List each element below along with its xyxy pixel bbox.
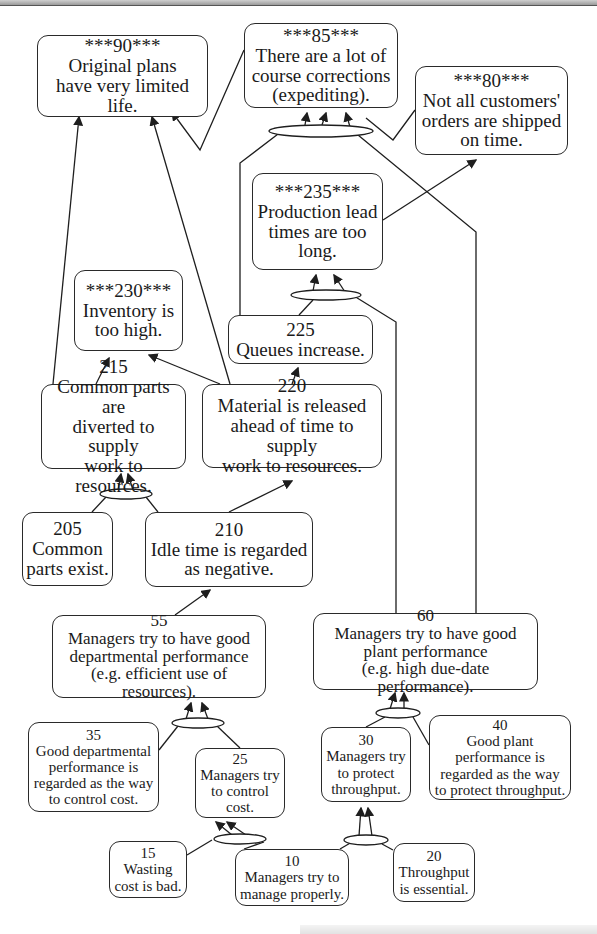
node-id-label: 25 (233, 751, 248, 767)
node-id-label: 215 (99, 357, 128, 377)
node-statement: Managers try to have good departmental p… (56, 630, 262, 701)
node-statement: Managers try to control cost. (200, 767, 280, 816)
node-230[interactable]: ***230*** Inventory is too high. (74, 270, 183, 351)
edge-n20-to-and30 (382, 844, 393, 850)
edge-and235-to-n235 (313, 275, 316, 291)
node-35[interactable]: 35 Good departmental performance is rega… (28, 722, 159, 812)
edge-n55-to-n210 (175, 590, 210, 615)
node-id-label: ***80*** (454, 71, 530, 91)
and-connector-60 (376, 708, 420, 718)
node-statement: Original plans have very limited life. (56, 56, 189, 116)
node-60[interactable]: 60 Managers try to have good plant perfo… (313, 613, 538, 690)
node-90[interactable]: ***90*** Original plans have very limite… (37, 35, 208, 117)
edge-and85-to-n85 (322, 113, 326, 125)
node-id-label: ***90*** (85, 36, 161, 56)
node-15[interactable]: 15 Wasting cost is bad. (109, 841, 187, 898)
edge-and85-to-n85 (305, 113, 307, 125)
node-statement: Material is released ahead of time to su… (206, 396, 378, 476)
node-235[interactable]: ***235*** Production lead times are too … (252, 173, 383, 270)
and-connector-85 (269, 125, 373, 137)
node-30[interactable]: 30 Managers try to protect throughput. (321, 727, 411, 802)
edge-and30-to-n30 (359, 808, 361, 836)
node-statement: Throughput is essential. (399, 864, 470, 896)
node-215[interactable]: 215 Common parts are diverted to supply … (41, 384, 186, 469)
edge-n210-to-and215 (146, 497, 158, 512)
edge-n15-to-and25 (187, 840, 212, 855)
node-85[interactable]: ***85*** There are a lot of course corre… (244, 23, 398, 108)
node-id-label: 225 (286, 320, 315, 340)
edge-and55-to-n55 (202, 703, 208, 719)
edge-n205-to-and215 (92, 497, 106, 512)
edge-and235-to-n235 (334, 275, 345, 292)
node-25[interactable]: 25 Managers try to control cost. (195, 748, 285, 818)
node-id-label: 210 (215, 520, 244, 540)
node-id-label: 40 (493, 717, 508, 733)
node-id-label: 30 (359, 732, 374, 748)
node-id-label: 10 (285, 853, 300, 869)
node-40[interactable]: 40 Good plant performance is regarded as… (429, 715, 571, 800)
node-20[interactable]: 20 Throughput is essential. (393, 843, 475, 902)
edge-n40-to-and60 (413, 717, 429, 745)
node-statement: Queues increase. (236, 340, 365, 360)
node-55[interactable]: 55 Managers try to have good departmenta… (52, 615, 266, 698)
edge-n210-to-n220 (229, 481, 292, 512)
edge-n80-to-n85 (366, 110, 415, 140)
edge-and85-to-n85 (346, 113, 350, 127)
node-225[interactable]: 225 Queues increase. (228, 315, 373, 364)
node-statement: Managers try to manage properly. (240, 869, 344, 901)
node-statement: Production lead times are too long. (258, 202, 378, 262)
node-statement: Good plant performance is regarded as th… (435, 733, 565, 798)
node-statement: Idle time is regarded as negative. (151, 540, 308, 580)
node-id-label: ***235*** (275, 182, 361, 202)
node-statement: Good departmental performance is regarde… (34, 743, 154, 808)
node-statement: Not all customers' orders are shipped on… (422, 91, 561, 151)
node-statement: Managers try to have good plant performa… (317, 625, 534, 696)
node-statement: Wasting cost is bad. (114, 861, 181, 893)
node-id-label: ***230*** (86, 281, 172, 301)
node-id-label: ***85*** (283, 26, 359, 46)
and-connector-55 (172, 718, 224, 728)
and-connector-25 (214, 834, 266, 844)
node-220[interactable]: 220 Material is released ahead of time t… (202, 384, 382, 468)
edge-n235-to-n80 (383, 160, 476, 220)
node-id-label: 205 (53, 519, 82, 539)
node-statement: Inventory is too high. (83, 301, 174, 341)
edge-n35-to-and55 (159, 726, 178, 750)
node-id-label: 20 (427, 848, 442, 864)
node-statement: Common parts exist. (26, 539, 108, 579)
and-connector-30 (344, 835, 388, 845)
and-connector-235 (291, 290, 361, 300)
node-id-label: 60 (417, 607, 434, 625)
edge-n30-to-and60 (366, 717, 385, 727)
node-statement: Common parts are diverted to supply work… (45, 377, 182, 497)
edge-n25-to-and55 (217, 726, 240, 748)
edge-n225-to-and235 (299, 300, 313, 315)
node-205[interactable]: 205 Common parts exist. (22, 512, 113, 586)
node-statement: Managers try to protect throughput. (326, 748, 406, 797)
node-80[interactable]: ***80*** Not all customers' orders are s… (415, 66, 568, 155)
edge-and55-to-n55 (186, 703, 191, 719)
node-statement: There are a lot of course corrections (e… (252, 46, 391, 106)
node-id-label: 15 (141, 845, 156, 861)
node-id-label: 35 (86, 727, 101, 743)
edge-and30-to-n30 (368, 808, 372, 836)
node-id-label: 55 (151, 612, 168, 630)
node-210[interactable]: 210 Idle time is regarded as negative. (145, 512, 313, 587)
node-id-label: 220 (278, 376, 307, 396)
node-10[interactable]: 10 Managers try to manage properly. (235, 849, 349, 906)
